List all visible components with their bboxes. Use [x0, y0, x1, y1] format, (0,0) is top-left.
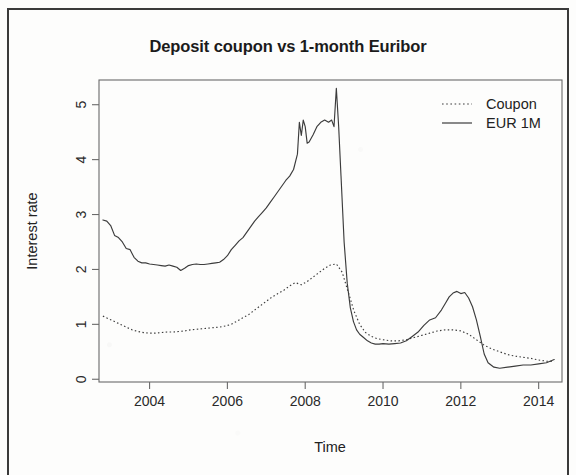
chart-legend: Coupon EUR 1M: [442, 96, 541, 131]
x-tick-label: 2012: [445, 393, 476, 409]
x-tick-label: 2006: [212, 393, 243, 409]
x-axis-ticks: 200420062008201020122014: [134, 382, 554, 409]
x-axis-title: Time: [314, 439, 346, 455]
y-tick-label: 5: [73, 101, 89, 109]
y-tick-label: 0: [73, 375, 89, 383]
page-border-right: [567, 8, 569, 475]
series-line-coupon: [103, 264, 554, 362]
y-tick-label: 2: [73, 265, 89, 273]
x-tick-label: 2008: [290, 393, 321, 409]
y-axis-ticks: 012345: [73, 101, 99, 384]
legend-label-euribor: EUR 1M: [486, 115, 541, 131]
chart-figure: Deposit coupon vs 1-month Euribor 012345…: [9, 10, 567, 475]
scanned-page-frame: Deposit coupon vs 1-month Euribor 012345…: [0, 0, 576, 475]
line-chart-plot: 012345 200420062008201020122014 Time Int…: [9, 10, 567, 475]
x-tick-label: 2004: [134, 393, 165, 409]
y-axis-title: Interest rate: [24, 192, 40, 269]
x-tick-label: 2010: [367, 393, 398, 409]
x-tick-label: 2014: [523, 393, 554, 409]
y-tick-label: 3: [73, 210, 89, 218]
legend-label-coupon: Coupon: [486, 96, 537, 112]
y-tick-label: 1: [73, 320, 89, 328]
y-tick-label: 4: [73, 156, 89, 164]
